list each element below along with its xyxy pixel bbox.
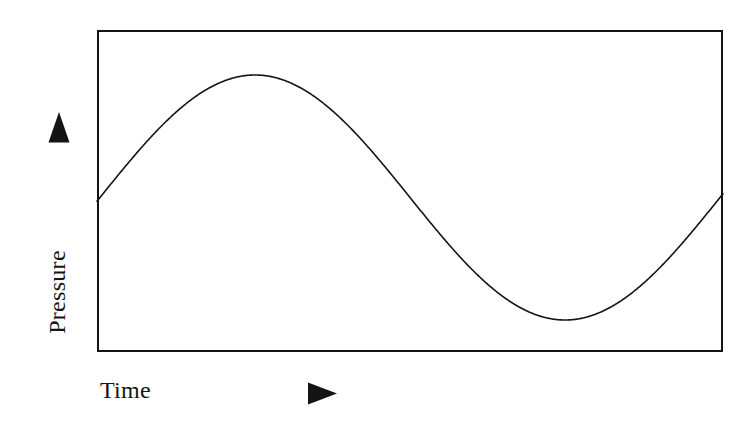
x-axis-label: Time	[100, 378, 151, 402]
figure-root: Pressure Time	[0, 0, 746, 430]
y-axis-label: Pressure	[45, 250, 69, 334]
triangle-right-icon	[307, 381, 338, 406]
triangle-up-icon	[47, 111, 71, 144]
plot-frame	[97, 30, 723, 352]
